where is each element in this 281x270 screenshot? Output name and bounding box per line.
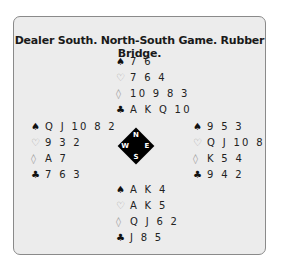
east-hand: ♠ 9 5 3 ♡ Q J 10 8 ◊ K 5 4 ♣ 9 4 2 bbox=[193, 119, 265, 183]
west-clubs: 7 6 3 bbox=[45, 167, 82, 183]
compass-east-label: E bbox=[143, 142, 151, 150]
east-clubs-row: ♣ 9 4 2 bbox=[193, 167, 265, 183]
north-hearts-row: ♡ 7 6 4 bbox=[116, 70, 192, 86]
north-hearts: 7 6 4 bbox=[130, 70, 167, 86]
heart-icon: ♡ bbox=[193, 135, 207, 151]
diamond-icon: ◊ bbox=[116, 214, 130, 230]
west-spades: Q J 10 8 2 bbox=[45, 119, 117, 135]
south-hearts-row: ♡ A K 5 bbox=[116, 198, 179, 214]
east-clubs: 9 4 2 bbox=[207, 167, 244, 183]
compass-west-label: W bbox=[121, 142, 129, 150]
north-diamonds: 10 9 8 3 bbox=[130, 86, 190, 102]
north-hand: ♠ 7 6 ♡ 7 6 4 ◊ 10 9 8 3 ♣ A K Q 10 bbox=[116, 54, 192, 118]
compass-south-label: S bbox=[132, 153, 140, 161]
club-icon: ♣ bbox=[31, 167, 45, 183]
west-diamonds-row: ◊ A 7 bbox=[31, 151, 117, 167]
south-spades: A K 4 bbox=[130, 182, 168, 198]
diamond-icon: ◊ bbox=[193, 151, 207, 167]
south-clubs-row: ♣ J 8 5 bbox=[116, 230, 179, 246]
west-hearts: 9 3 2 bbox=[45, 135, 82, 151]
east-hearts: Q J 10 8 bbox=[207, 135, 265, 151]
west-diamonds: A 7 bbox=[45, 151, 68, 167]
south-hearts: A K 5 bbox=[130, 198, 168, 214]
north-clubs-row: ♣ A K Q 10 bbox=[116, 102, 192, 118]
west-spades-row: ♠ Q J 10 8 2 bbox=[31, 119, 117, 135]
club-icon: ♣ bbox=[193, 167, 207, 183]
west-hand: ♠ Q J 10 8 2 ♡ 9 3 2 ◊ A 7 ♣ 7 6 3 bbox=[31, 119, 117, 183]
east-hearts-row: ♡ Q J 10 8 bbox=[193, 135, 265, 151]
heart-icon: ♡ bbox=[116, 198, 130, 214]
south-spades-row: ♠ A K 4 bbox=[116, 182, 179, 198]
diamond-icon: ◊ bbox=[116, 86, 130, 102]
spade-icon: ♠ bbox=[116, 182, 130, 198]
heart-icon: ♡ bbox=[31, 135, 45, 151]
north-diamonds-row: ◊ 10 9 8 3 bbox=[116, 86, 192, 102]
spade-icon: ♠ bbox=[116, 54, 130, 70]
south-hand: ♠ A K 4 ♡ A K 5 ◊ Q J 6 2 ♣ J 8 5 bbox=[116, 182, 179, 246]
west-clubs-row: ♣ 7 6 3 bbox=[31, 167, 117, 183]
south-diamonds-row: ◊ Q J 6 2 bbox=[116, 214, 179, 230]
east-spades-row: ♠ 9 5 3 bbox=[193, 119, 265, 135]
club-icon: ♣ bbox=[116, 230, 130, 246]
south-clubs: J 8 5 bbox=[130, 230, 164, 246]
east-spades: 9 5 3 bbox=[207, 119, 244, 135]
diamond-icon: ◊ bbox=[31, 151, 45, 167]
north-clubs: A K Q 10 bbox=[130, 102, 192, 118]
west-hearts-row: ♡ 9 3 2 bbox=[31, 135, 117, 151]
spade-icon: ♠ bbox=[31, 119, 45, 135]
south-diamonds: Q J 6 2 bbox=[130, 214, 179, 230]
club-icon: ♣ bbox=[116, 102, 130, 118]
spade-icon: ♠ bbox=[193, 119, 207, 135]
north-spades-row: ♠ 7 6 bbox=[116, 54, 192, 70]
compass-north-label: N bbox=[132, 131, 140, 139]
heart-icon: ♡ bbox=[116, 70, 130, 86]
north-spades: 7 6 bbox=[130, 54, 153, 70]
compass-rose: N S W E bbox=[117, 127, 155, 165]
east-diamonds: K 5 4 bbox=[207, 151, 244, 167]
deal-diagram-panel: Dealer South. North-South Game. Rubber B… bbox=[13, 16, 266, 255]
east-diamonds-row: ◊ K 5 4 bbox=[193, 151, 265, 167]
